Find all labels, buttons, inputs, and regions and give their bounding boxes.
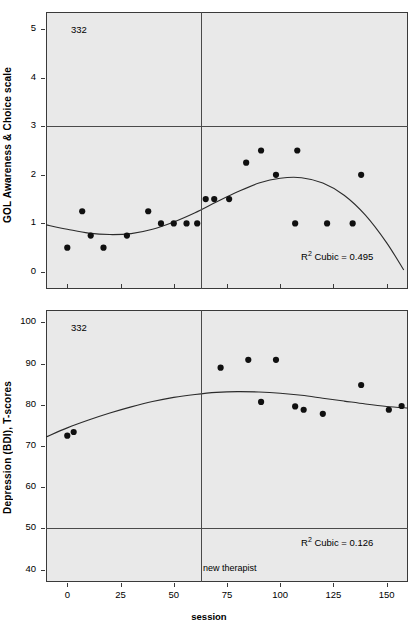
x-tick-mark-top [174,284,175,288]
y-tick-mark-bottom [41,364,45,365]
y-tick-label-bottom: 60 [4,480,36,491]
x-tick-mark-top [387,284,388,288]
data-point [171,220,177,226]
cubic-fit-curve-bottom [46,392,408,437]
x-tick-mark-top [333,284,334,288]
data-point [245,357,251,363]
data-point [203,196,209,202]
data-point [71,429,77,435]
y-tick-mark-top [41,78,45,79]
y-tick-label-top: 0 [4,265,36,276]
data-point [124,232,130,238]
figure-two-panel-scatter: GOL Awareness & Choice scale 332 R2 Cubi… [0,0,418,625]
y-tick-mark-top [41,272,45,273]
data-point [358,172,364,178]
y-tick-label-top: 1 [4,216,36,227]
data-point [194,220,200,226]
y-tick-label-bottom: 90 [4,357,36,368]
data-point [243,160,249,166]
data-point [79,208,85,214]
data-point [386,407,392,413]
data-point [183,220,189,226]
data-point [292,403,298,409]
y-tick-label-bottom: 50 [4,521,36,532]
data-point [64,433,70,439]
event-vline-top [201,12,202,289]
y-tick-label-bottom: 40 [4,563,36,574]
data-point [211,196,217,202]
data-point [301,407,307,413]
x-tick-mark-bottom [67,583,68,587]
y-tick-label-bottom: 100 [4,315,36,326]
y-tick-mark-top [41,175,45,176]
x-tick-mark-bottom [174,583,175,587]
x-tick-mark-top [280,284,281,288]
y-tick-mark-bottom [41,322,45,323]
data-point [273,357,279,363]
x-tick-mark-bottom [387,583,388,587]
data-point [158,220,164,226]
y-tick-label-top: 4 [4,71,36,82]
data-point [350,220,356,226]
x-tick-mark-bottom [333,583,334,587]
x-tick-mark-bottom [227,583,228,587]
data-point [145,208,151,214]
panel-bottom: Depression (BDI), T-scores 332 R2 Cubic … [0,300,418,625]
data-point [100,245,106,251]
y-tick-mark-bottom [41,405,45,406]
data-point [273,172,279,178]
data-point [399,403,405,409]
data-point [358,382,364,388]
data-point [292,220,298,226]
data-point [320,411,326,417]
data-point [218,365,224,371]
x-tick-label: 75 [207,589,247,600]
data-point [88,232,94,238]
data-point [258,147,264,153]
panel-top: GOL Awareness & Choice scale 332 R2 Cubi… [0,0,418,300]
x-tick-label: 0 [47,589,87,600]
data-point [226,196,232,202]
y-tick-mark-bottom [41,570,45,571]
y-tick-label-bottom: 70 [4,439,36,450]
data-point [258,399,264,405]
data-point [324,220,330,226]
reference-hline-top [46,126,408,127]
y-tick-mark-bottom [41,487,45,488]
y-tick-label-top: 5 [4,22,36,33]
y-tick-label-top: 2 [4,168,36,179]
event-vline-bottom [201,310,202,582]
x-tick-label: 100 [260,589,300,600]
x-tick-mark-bottom [121,583,122,587]
x-tick-label: 50 [154,589,194,600]
y-tick-label-bottom: 80 [4,398,36,409]
x-tick-mark-bottom [280,583,281,587]
y-tick-label-top: 3 [4,119,36,130]
y-tick-mark-top [41,29,45,30]
x-tick-label: 125 [313,589,353,600]
x-tick-label: 25 [101,589,141,600]
data-point [64,245,70,251]
y-tick-mark-bottom [41,528,45,529]
y-tick-mark-top [41,126,45,127]
x-tick-mark-top [67,284,68,288]
data-point [294,147,300,153]
y-tick-mark-top [41,223,45,224]
x-tick-mark-top [121,284,122,288]
data-overlay-bottom [0,300,418,625]
y-tick-mark-bottom [41,446,45,447]
x-tick-label: 150 [367,589,407,600]
reference-hline-bottom [46,528,408,529]
x-tick-mark-top [227,284,228,288]
data-overlay-top [0,0,418,300]
